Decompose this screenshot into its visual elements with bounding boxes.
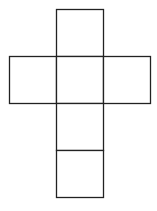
net-face-left bbox=[10, 57, 57, 104]
net-face-right bbox=[104, 57, 151, 104]
net-face-center bbox=[57, 57, 104, 104]
cube-net-diagram bbox=[0, 0, 157, 211]
net-face-bottom bbox=[57, 151, 104, 198]
net-face-top bbox=[57, 10, 104, 57]
net-face-lower bbox=[57, 104, 104, 151]
